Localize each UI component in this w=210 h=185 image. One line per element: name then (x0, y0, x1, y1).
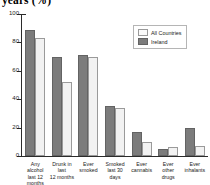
legend-label-all-countries: All Countries (151, 30, 182, 36)
chart-title: years (%) (2, 0, 51, 6)
legend-item-ireland[interactable]: Ireland (138, 38, 182, 45)
bar-group (75, 14, 102, 156)
x-axis-line (21, 156, 208, 157)
y-tick-label: 20 (12, 124, 19, 131)
legend-item-all-countries[interactable]: All Countries (138, 29, 182, 36)
bar-group (49, 14, 76, 156)
legend-swatch-icon-ireland (138, 38, 148, 45)
x-axis-labels: Any alcohollast 12 monthsDrunk in last12… (22, 161, 208, 185)
y-tick-label: 40 (12, 95, 19, 102)
bar-ireland[interactable] (132, 132, 142, 156)
x-axis-label: Everother drugs (155, 161, 182, 185)
bar-ireland[interactable] (105, 106, 115, 156)
bar-ireland[interactable] (158, 149, 168, 156)
x-axis-label: Any alcohollast 12 months (22, 161, 49, 185)
x-axis-label: Evercannabis (128, 161, 155, 185)
bar-all-countries[interactable] (62, 82, 72, 156)
y-tick-label: 0 (16, 152, 19, 159)
bar-all-countries[interactable] (195, 146, 205, 156)
bar-chart: years (%) 020406080100 Any alcohollast 1… (0, 0, 210, 185)
bar-all-countries[interactable] (115, 108, 125, 156)
bar-all-countries[interactable] (35, 38, 45, 156)
x-axis-label: Everinhalants (181, 161, 208, 185)
legend-label-ireland: Ireland (151, 39, 167, 45)
bar-ireland[interactable] (185, 128, 195, 156)
legend-swatch-icon-all-countries (138, 29, 148, 36)
bar-all-countries[interactable] (88, 57, 98, 156)
bar-all-countries[interactable] (168, 147, 178, 156)
bar-group (22, 14, 49, 156)
chart-legend: All Countries Ireland (133, 25, 187, 49)
bar-group (102, 14, 129, 156)
bar-all-countries[interactable] (142, 142, 152, 156)
y-tick-label: 100 (9, 10, 19, 17)
x-axis-label: Drunk in last12 months (49, 161, 76, 185)
bar-ireland[interactable] (52, 57, 62, 156)
x-axis-label: Smokedlast 30 days (102, 161, 129, 185)
bar-ireland[interactable] (25, 30, 35, 156)
y-tick-label: 60 (12, 67, 19, 74)
y-tick-label: 80 (12, 38, 19, 45)
x-axis-label: Eversmoked (75, 161, 102, 185)
bar-ireland[interactable] (78, 55, 88, 156)
